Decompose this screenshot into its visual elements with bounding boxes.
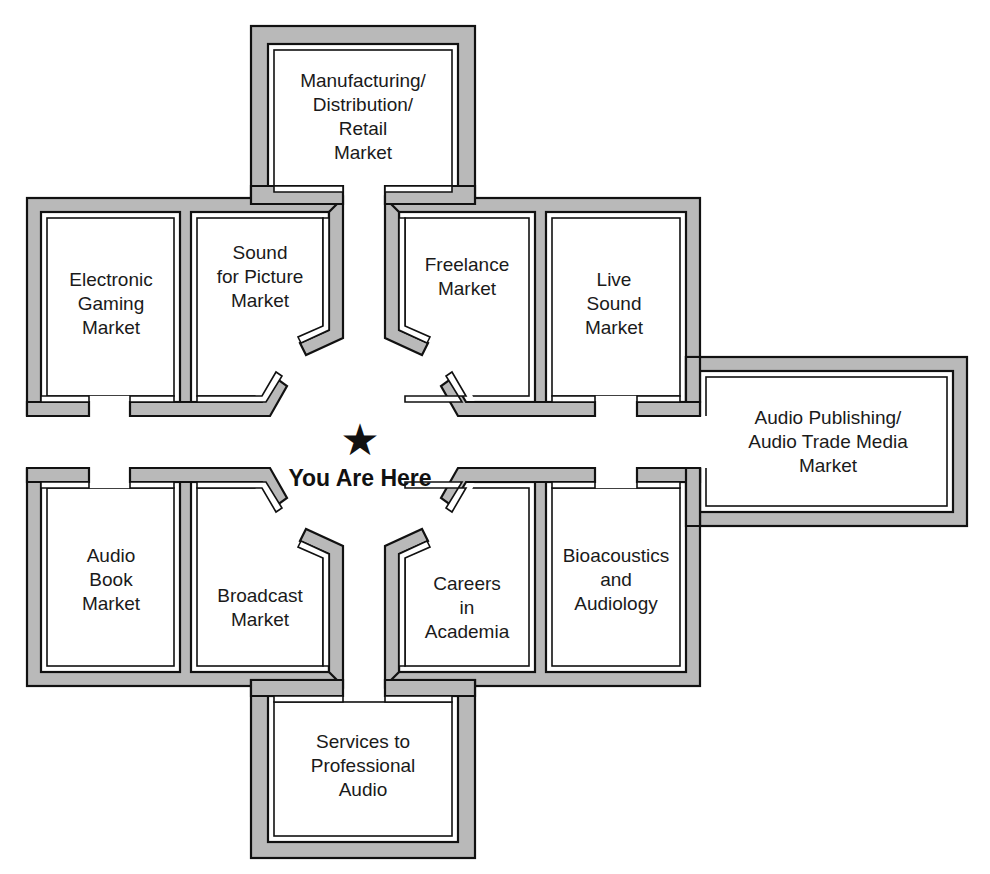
room-label-sound-for-picture: Sound for Picture Market bbox=[217, 241, 304, 313]
room-label-audio-publishing: Audio Publishing/ Audio Trade Media Mark… bbox=[748, 406, 908, 478]
label-line: Audio Publishing/ bbox=[748, 406, 908, 430]
label-line: Audio bbox=[82, 544, 140, 568]
label-line: Gaming bbox=[69, 292, 152, 316]
label-line: in bbox=[425, 596, 510, 620]
label-line: Market bbox=[300, 141, 426, 165]
label-line: Book bbox=[82, 568, 140, 592]
label-line: Retail bbox=[300, 117, 426, 141]
label-line: Broadcast bbox=[217, 584, 303, 608]
label-line: Sound bbox=[585, 292, 643, 316]
door-electronic-gaming bbox=[89, 396, 130, 418]
room-label-freelance: Freelance Market bbox=[425, 253, 510, 301]
label-line: Market bbox=[425, 277, 510, 301]
label-line: Market bbox=[217, 289, 304, 313]
label-line: Live bbox=[585, 268, 643, 292]
label-line: Professional bbox=[311, 754, 416, 778]
room-label-services-pro-audio: Services to Professional Audio bbox=[311, 730, 416, 802]
label-line: Market bbox=[585, 316, 643, 340]
label-line: Audiology bbox=[563, 592, 670, 616]
door-audio-book bbox=[89, 466, 130, 488]
room-label-audio-book: Audio Book Market bbox=[82, 544, 140, 616]
label-line: Audio Trade Media bbox=[748, 430, 908, 454]
label-line: Academia bbox=[425, 620, 510, 644]
door-live-sound bbox=[595, 396, 637, 418]
label-line: Freelance bbox=[425, 253, 510, 277]
room-label-manufacturing: Manufacturing/ Distribution/ Retail Mark… bbox=[300, 69, 426, 165]
label-line: for Picture bbox=[217, 265, 304, 289]
label-line: Market bbox=[69, 316, 152, 340]
you-are-here-label: You Are Here bbox=[288, 465, 431, 492]
label-line: Bioacoustics bbox=[563, 544, 670, 568]
door-bioacoustics bbox=[595, 466, 637, 488]
star-icon: ★ bbox=[340, 418, 379, 462]
room-label-broadcast: Broadcast Market bbox=[217, 584, 303, 632]
label-line: Sound bbox=[217, 241, 304, 265]
label-line: Audio bbox=[311, 778, 416, 802]
label-line: Market bbox=[748, 454, 908, 478]
label-line: Market bbox=[82, 592, 140, 616]
label-line: Electronic bbox=[69, 268, 152, 292]
label-line: Services to bbox=[311, 730, 416, 754]
room-label-electronic-gaming: Electronic Gaming Market bbox=[69, 268, 152, 340]
room-label-live-sound: Live Sound Market bbox=[585, 268, 643, 340]
label-line: Careers bbox=[425, 572, 510, 596]
room-label-bioacoustics: Bioacoustics and Audiology bbox=[563, 544, 670, 616]
label-line: Market bbox=[217, 608, 303, 632]
room-label-careers-academia: Careers in Academia bbox=[425, 572, 510, 644]
label-line: Manufacturing/ bbox=[300, 69, 426, 93]
label-line: Distribution/ bbox=[300, 93, 426, 117]
label-line: and bbox=[563, 568, 670, 592]
door-audio-publishing bbox=[684, 416, 704, 468]
